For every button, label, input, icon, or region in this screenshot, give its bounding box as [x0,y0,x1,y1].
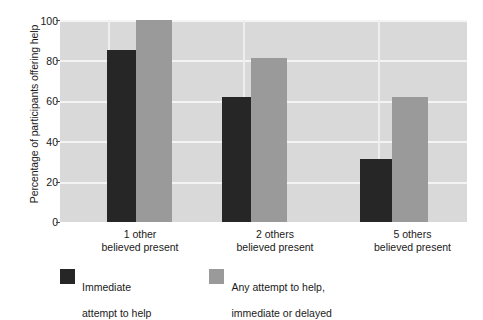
plot-area [60,20,467,222]
bar-group3-immediate [360,159,392,222]
x-label-group2: 2 others believed present [215,228,335,254]
y-tick-label-0: 0 [18,216,58,228]
y-axis-title: Percentage of participants offering help [28,4,40,224]
bar-group1-any [136,20,172,222]
x-label-group2-line1: 2 others [215,228,335,241]
legend-item-immediate: Immediate attempt to help [60,268,151,320]
legend-label-immediate-line2: attempt to help [82,307,151,319]
legend-swatch-dark-icon [60,269,75,284]
y-tick-label-60: 60 [18,95,58,107]
x-label-group1-line1: 1 other [80,228,200,241]
legend-swatch-light-icon [209,269,224,284]
bar-group1-immediate [107,50,136,222]
bar-group2-immediate [222,97,251,222]
y-tick-label-80: 80 [18,55,58,67]
legend-item-any: Any attempt to help, immediate or delaye… [209,268,331,320]
y-tick-mark-0 [56,222,60,223]
bar-group2-any [251,58,287,222]
legend-label-immediate: Immediate attempt to help [82,268,151,320]
y-tick-label-100: 100 [18,15,58,27]
x-label-group1: 1 other believed present [80,228,200,254]
legend-label-any: Any attempt to help, immediate or delaye… [231,268,331,320]
x-label-group3-line2: believed present [335,241,483,254]
bar-group3-any [392,97,428,222]
gridline-100 [60,20,467,22]
x-label-group2-line2: believed present [215,241,335,254]
chart-legend: Immediate attempt to help Any attempt to… [60,268,332,320]
y-tick-label-40: 40 [18,136,58,148]
legend-label-immediate-line1: Immediate [82,281,131,293]
x-label-group3: 5 others believed present [335,228,483,254]
legend-label-any-line1: Any attempt to help, [231,281,324,293]
y-tick-label-20: 20 [18,176,58,188]
x-label-group1-line2: believed present [80,241,200,254]
x-label-group3-line1: 5 others [335,228,483,241]
legend-label-any-line2: immediate or delayed [231,307,331,319]
